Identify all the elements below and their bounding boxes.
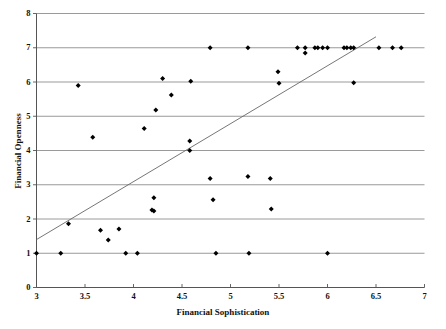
data-point-marker [160, 76, 165, 81]
data-point-marker [116, 226, 121, 231]
data-point-marker [58, 251, 63, 256]
x-tick-label: 6 [313, 291, 343, 301]
data-point-marker [376, 45, 381, 50]
y-tick-label: 2 [11, 214, 31, 224]
y-tick-label: 6 [11, 77, 31, 87]
data-point-marker [151, 195, 156, 200]
x-tick-label: 3.5 [70, 291, 100, 301]
data-point-marker [188, 79, 193, 84]
data-point-marker [208, 176, 213, 181]
data-point-marker [268, 176, 273, 181]
data-point-marker [98, 228, 103, 233]
data-point-marker [303, 50, 308, 55]
data-point-marker [187, 138, 192, 143]
data-point-marker [351, 80, 356, 85]
x-tick-label: 5 [216, 291, 246, 301]
data-point-marker [142, 126, 147, 131]
data-point-marker [246, 251, 251, 256]
data-point-marker [320, 45, 325, 50]
x-tick-label: 7 [410, 291, 440, 301]
data-point-marker [315, 45, 320, 50]
y-tick-label: 4 [11, 145, 31, 155]
data-point-marker [399, 45, 404, 50]
trendline [37, 37, 377, 240]
data-point-marker [34, 251, 39, 256]
data-point-marker [66, 221, 71, 226]
data-point-marker [208, 45, 213, 50]
data-point-marker [90, 135, 95, 140]
data-point-marker [211, 197, 216, 202]
data-point-marker [325, 45, 330, 50]
data-point-marker [390, 45, 395, 50]
data-point-marker [269, 207, 274, 212]
data-point-marker [245, 174, 250, 179]
data-point-marker [76, 83, 81, 88]
y-tick-label: 1 [11, 248, 31, 258]
plot-area [0, 0, 446, 329]
data-point-marker [135, 251, 140, 256]
data-point-marker [106, 237, 111, 242]
x-tick-label: 3 [22, 291, 52, 301]
y-tick-label: 7 [11, 42, 31, 52]
scatter-chart: Financial Openness Financial Sophisticat… [0, 0, 446, 329]
data-point-marker [169, 93, 174, 98]
data-point-marker [123, 251, 128, 256]
data-point-marker [325, 251, 330, 256]
data-point-marker [245, 45, 250, 50]
y-tick-label: 5 [11, 111, 31, 121]
data-point-marker [153, 108, 158, 113]
y-tick-label: 3 [11, 179, 31, 189]
x-axis-title: Financial Sophistication [0, 307, 446, 317]
x-tick-label: 4.5 [167, 291, 197, 301]
data-point-marker [213, 251, 218, 256]
x-tick-label: 5.5 [264, 291, 294, 301]
x-tick-label: 6.5 [361, 291, 391, 301]
data-point-marker [295, 45, 300, 50]
x-tick-label: 4 [119, 291, 149, 301]
data-point-marker [303, 45, 308, 50]
y-tick-label: 8 [11, 8, 31, 18]
data-point-marker [276, 69, 281, 74]
